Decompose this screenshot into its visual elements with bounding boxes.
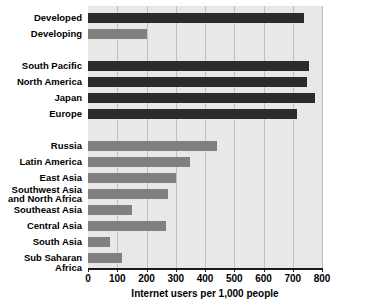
category-label: Developing (0, 29, 82, 39)
bar (88, 157, 190, 167)
plot-area (88, 6, 322, 268)
bar (88, 29, 147, 39)
bar (88, 13, 304, 23)
bar-row (88, 154, 322, 170)
category-label: Central Asia (0, 221, 82, 231)
category-label: Russia (0, 141, 82, 151)
category-label: Southeast Asia (0, 205, 82, 215)
bar-row (88, 202, 322, 218)
x-axis-tick (264, 268, 265, 272)
bar-row (88, 106, 322, 122)
bar-row (88, 186, 322, 202)
bar-chart: DevelopedDevelopingSouth PacificNorth Am… (0, 0, 366, 306)
bar-rows (88, 6, 322, 268)
category-label: Southwest Asia and North Africa (0, 185, 82, 204)
bar-row (88, 74, 322, 90)
bar (88, 205, 132, 215)
bar-row (88, 58, 322, 74)
category-label: Japan (0, 93, 82, 103)
bar (88, 141, 217, 151)
bar (88, 173, 176, 183)
category-label: North America (0, 77, 82, 87)
category-label: Developed (0, 13, 82, 23)
category-label: Sub Saharan Africa (0, 253, 82, 272)
bar (88, 109, 297, 119)
category-axis-labels: DevelopedDevelopingSouth PacificNorth Am… (0, 6, 85, 268)
x-axis-tick (117, 268, 118, 272)
bar-row (88, 218, 322, 234)
category-label: Latin America (0, 157, 82, 167)
x-axis-tick (322, 268, 323, 272)
x-axis-tick (234, 268, 235, 272)
x-axis-tick (293, 268, 294, 272)
bar (88, 77, 307, 87)
bar (88, 61, 309, 71)
bar-row (88, 234, 322, 250)
x-axis-tick (205, 268, 206, 272)
bar-row (88, 250, 322, 266)
bar-row (88, 10, 322, 26)
x-axis-tick (147, 268, 148, 272)
x-axis-tick (88, 268, 89, 272)
category-label: Europe (0, 109, 82, 119)
bar (88, 189, 168, 199)
bar (88, 93, 315, 103)
x-axis-title: Internet users per 1,000 people (88, 288, 322, 299)
category-label: East Asia (0, 173, 82, 183)
bar-row (88, 122, 322, 138)
bar (88, 237, 110, 247)
gridline (322, 6, 323, 268)
x-axis-tick-label: 800 (302, 273, 342, 284)
bar-row (88, 138, 322, 154)
bar-row (88, 42, 322, 58)
bar-row (88, 170, 322, 186)
bar (88, 253, 122, 263)
x-axis-tick (176, 268, 177, 272)
bar (88, 221, 166, 231)
bar-row (88, 26, 322, 42)
category-label: South Pacific (0, 61, 82, 71)
bar-row (88, 90, 322, 106)
category-label: South Asia (0, 237, 82, 247)
